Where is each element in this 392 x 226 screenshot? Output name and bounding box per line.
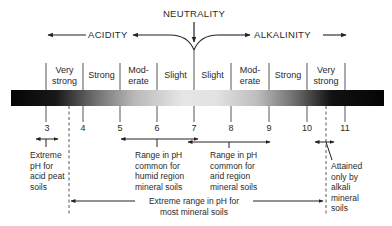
- tick-7: 7: [191, 123, 196, 133]
- tick-11: 11: [340, 123, 349, 133]
- tick-marks: [46, 106, 345, 122]
- tick-10: 10: [302, 123, 312, 133]
- category-slight-acid: Slight: [157, 70, 194, 81]
- tick-3: 3: [44, 123, 49, 133]
- category-strong-acid: Strong: [83, 70, 120, 81]
- category-moderate-acid: Mod- erate: [120, 65, 157, 87]
- annotation-alkali-mineral: Attained only by alkali mineral soils: [331, 161, 362, 214]
- annotation-humid-region: Range in pH common for humid region mine…: [135, 150, 184, 192]
- annotation-extreme-range: Extreme range in pH for most mineral soi…: [149, 196, 239, 217]
- category-moderate-alkaline: Mod- erate: [231, 65, 269, 87]
- annotation-arid-region: Range in pH common for arid region miner…: [210, 150, 257, 192]
- tick-4: 4: [80, 123, 85, 133]
- tick-8: 8: [228, 123, 233, 133]
- ph-gradient-bar: [11, 90, 384, 106]
- tick-5: 5: [117, 123, 122, 133]
- neutrality-label: NEUTRALITY: [163, 9, 225, 19]
- tick-9: 9: [266, 123, 271, 133]
- category-very-strong-acid: Very strong: [46, 65, 83, 87]
- annotation-acid-peat: Extreme pH for acid peat soils: [30, 150, 65, 192]
- soil-ph-diagram: NEUTRALITY ACIDITY ALKALINITY Very stron…: [0, 0, 392, 226]
- category-slight-alkaline: Slight: [194, 70, 231, 81]
- category-very-strong-alkaline: Very strong: [307, 65, 345, 87]
- alkalinity-label: ALKALINITY: [254, 30, 311, 40]
- acidity-label: ACIDITY: [88, 30, 128, 40]
- tick-6: 6: [154, 123, 159, 133]
- category-strong-alkaline: Strong: [269, 70, 307, 81]
